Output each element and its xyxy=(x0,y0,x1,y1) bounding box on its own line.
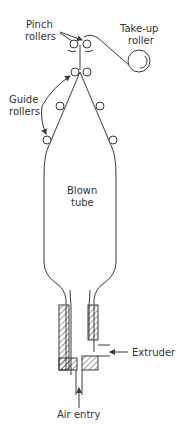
pinch-rotation-left xyxy=(68,50,76,52)
blown-tube-label-1: Blown xyxy=(67,185,97,196)
blown-tube-label-2: tube xyxy=(71,197,94,208)
guide-rollers-label-2: rollers xyxy=(9,106,40,117)
die-bottom-left xyxy=(59,358,77,370)
takeup-roller-label-1: Take-up xyxy=(119,23,158,34)
guide-roller-top-right-icon xyxy=(83,68,91,76)
guide-roller-mid-right-icon xyxy=(96,102,104,110)
guide-label-arrow-down xyxy=(42,106,47,134)
pinch-roller-left-icon xyxy=(70,40,78,48)
blown-film-diagram: Pinch rollers Take-up roller Guide rolle… xyxy=(0,0,181,440)
pinch-rollers-label-2: rollers xyxy=(25,31,56,42)
die-right-block xyxy=(88,305,98,340)
guide-rollers-label-1: Guide xyxy=(9,94,38,105)
guide-roller-low-left-icon xyxy=(43,136,51,144)
pinch-label-arrow xyxy=(60,32,82,40)
pinch-rollers-label-1: Pinch xyxy=(26,19,53,30)
guide-roller-mid-left-icon xyxy=(56,102,64,110)
takeup-roller-label-2: roller xyxy=(128,35,155,46)
guide-roller-top-left-icon xyxy=(71,68,79,76)
film-to-takeup xyxy=(84,35,130,66)
pinch-roller-right-icon xyxy=(83,40,91,48)
extruder-label: Extruder xyxy=(132,347,176,358)
die-bottom-right xyxy=(82,356,98,370)
air-entry-label: Air entry xyxy=(57,409,100,420)
guide-roller-low-right-icon xyxy=(109,136,117,144)
guide-label-arrow-up xyxy=(42,76,70,106)
pinch-rotation-right xyxy=(85,50,93,52)
